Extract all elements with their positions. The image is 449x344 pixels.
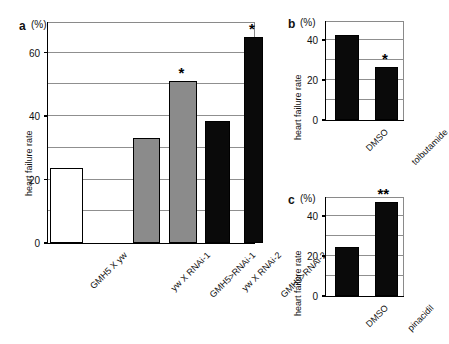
- panel-c-plot-area: **: [325, 197, 404, 297]
- x-axis-label: DMSO: [364, 127, 390, 153]
- x-axis-label: GMH5 X yw: [88, 250, 129, 291]
- panel-a-plot-area: **: [47, 22, 255, 244]
- gridline: [48, 115, 255, 116]
- panel-a: a (%) heart failure rate ** 0204060GMH5 …: [0, 0, 262, 344]
- significance-marker: *: [249, 21, 255, 36]
- y-axis-tick: [44, 52, 48, 53]
- panel-b-plot-area: *: [325, 21, 404, 121]
- y-axis-tick: [322, 215, 326, 216]
- y-axis-tick-label: 0: [5, 239, 40, 249]
- significance-marker: *: [382, 51, 388, 66]
- bar-c-1: [335, 247, 359, 296]
- y-axis-tick: [322, 39, 326, 40]
- y-axis-tick: [322, 295, 326, 296]
- panel-c-letter: c: [288, 194, 295, 206]
- gridline: [48, 83, 255, 84]
- panel-c-frame-top: [326, 197, 404, 198]
- y-axis-tick: [322, 255, 326, 256]
- y-axis-tick: [322, 79, 326, 80]
- bar-b-1: [335, 35, 359, 120]
- panel-a-frame-top: [48, 22, 255, 23]
- x-axis-label: yw X RNAi-1: [168, 250, 211, 293]
- y-axis-tick-label: 40: [267, 212, 318, 222]
- bar-a-5: [244, 37, 263, 243]
- y-axis-tick-label: 20: [5, 176, 40, 186]
- panel-b-frame-right: [403, 21, 404, 120]
- y-axis-tick: [322, 119, 326, 120]
- panel-a-ylabel: heart failure rate: [24, 130, 34, 196]
- bar-a-1: [50, 168, 83, 243]
- panel-c-frame-right: [403, 197, 404, 296]
- bar-a-2: [133, 138, 160, 243]
- y-axis-tick: [44, 242, 48, 243]
- y-axis-tick-label: 40: [5, 112, 40, 122]
- panel-b: b (%) heart failure rate * 02040DMSOtolb…: [262, 0, 410, 172]
- y-axis-tick-label: 0: [267, 292, 318, 302]
- x-axis-label: DMSO: [364, 303, 390, 329]
- significance-marker: *: [179, 65, 185, 80]
- panel-b-letter: b: [288, 18, 295, 30]
- y-axis-tick: [44, 115, 48, 116]
- bar-b-2: [375, 67, 398, 120]
- y-axis-tick-label: 60: [5, 49, 40, 59]
- panel-a-unit: (%): [31, 20, 47, 30]
- x-axis-label: pinacidil: [405, 303, 435, 333]
- panel-c: c (%) heart failure rate ** 02040DMSOpin…: [262, 172, 410, 344]
- x-axis-label: tolbutamide: [409, 127, 449, 167]
- panel-b-frame-top: [326, 21, 404, 22]
- panel-a-letter: a: [19, 20, 26, 32]
- y-axis-tick-label: 20: [267, 252, 318, 262]
- gridline: [48, 52, 255, 53]
- significance-marker: **: [378, 186, 390, 201]
- y-axis-tick-label: 0: [267, 116, 318, 126]
- panel-c-unit: (%): [300, 194, 316, 204]
- bar-a-4: [205, 121, 230, 243]
- y-axis-tick-label: 20: [267, 76, 318, 86]
- panel-b-unit: (%): [300, 18, 316, 28]
- bar-c-2: [375, 202, 398, 296]
- y-axis-tick: [44, 179, 48, 180]
- y-axis-tick-label: 40: [267, 36, 318, 46]
- bar-a-3: [169, 81, 197, 243]
